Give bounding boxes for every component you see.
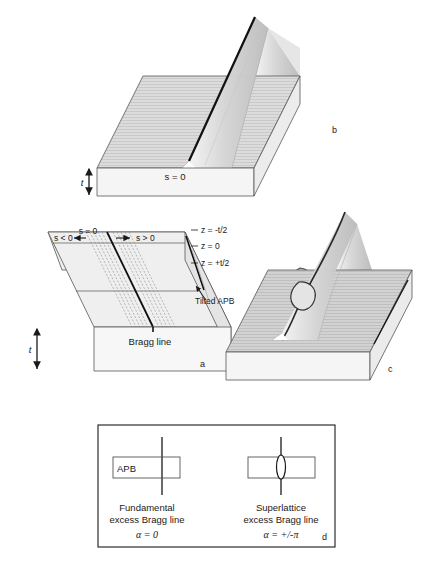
panel-b-s-zero-label: s = 0 xyxy=(165,171,186,182)
panel-d: APB Fundamental excess Bragg line α = 0 … xyxy=(98,425,335,547)
panel-a-tilted-apb-label: Tilted APB xyxy=(195,296,235,306)
panel-b-letter: b xyxy=(332,125,337,135)
panel-b-thickness-label: t xyxy=(81,177,84,188)
panel-a-s-positive-label: s > 0 xyxy=(136,233,155,243)
panel-c: c xyxy=(226,212,412,380)
panel-d-right-alpha: α = +/-π xyxy=(264,529,300,540)
panel-b-thickness-marker: t xyxy=(81,169,89,195)
panel-a-z-bottom-label: z = +t/2 xyxy=(201,258,230,268)
panel-a-letter: a xyxy=(200,359,205,369)
panel-d-border xyxy=(98,425,335,547)
panel-b: s = 0 t b xyxy=(81,17,337,196)
panel-a: s < 0 s = 0 s > 0 Bragg line z = -t/2 z … xyxy=(29,225,235,371)
panel-d-letter: d xyxy=(322,532,327,542)
panel-a-thickness-marker: t xyxy=(29,329,37,369)
panel-a-slab-front xyxy=(94,327,231,371)
panel-d-left-alpha: α = 0 xyxy=(136,529,158,540)
panel-a-thickness-label: t xyxy=(29,344,32,355)
panel-c-letter: c xyxy=(388,364,393,374)
panel-a-z-top-label: z = -t/2 xyxy=(201,225,227,235)
panel-d-right-caption-1: Superlattice xyxy=(256,502,306,513)
panel-d-apb-label: APB xyxy=(117,463,136,474)
panel-c-slab-front xyxy=(226,352,370,380)
panel-a-z-mid-label: z = 0 xyxy=(201,241,220,251)
figure-canvas: s = 0 t b xyxy=(0,0,434,568)
panel-d-right-caption-2: excess Bragg line xyxy=(244,514,319,525)
panel-a-s-zero-label: s = 0 xyxy=(79,226,98,236)
panel-d-left-caption-2: excess Bragg line xyxy=(110,514,185,525)
panel-a-s-negative-label: s < 0 xyxy=(54,233,73,243)
panel-d-lens-feature xyxy=(277,455,286,479)
figure-svg: s = 0 t b xyxy=(0,0,434,568)
panel-d-left-caption-1: Fundamental xyxy=(119,502,174,513)
panel-a-bragg-line-label: Bragg line xyxy=(129,336,172,347)
